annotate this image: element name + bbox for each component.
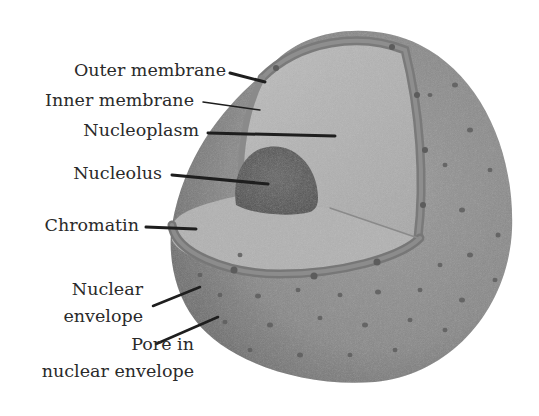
label-nucleolus: Nucleolus <box>73 162 162 184</box>
label-pore-line1: Pore in <box>42 331 194 358</box>
label-outer-membrane: Outer membrane <box>74 59 226 81</box>
label-nuclear-envelope-line1: Nuclear <box>63 276 143 303</box>
label-inner-membrane: Inner membrane <box>45 89 194 111</box>
nucleus-diagram: Outer membrane Inner membrane Nucleoplas… <box>0 0 539 416</box>
label-chromatin: Chromatin <box>45 214 140 236</box>
label-nuclear-envelope: Nuclear envelope <box>63 276 143 330</box>
label-pore-line2: nuclear envelope <box>42 358 194 385</box>
leader-chromatin <box>146 227 196 229</box>
label-nuclear-envelope-line2: envelope <box>63 303 143 330</box>
label-pore: Pore in nuclear envelope <box>42 331 194 385</box>
label-nucleoplasm: Nucleoplasm <box>83 119 199 141</box>
